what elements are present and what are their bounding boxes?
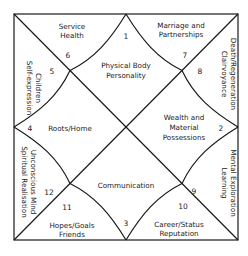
- house-9: Mental Exploration Learning 9: [192, 149, 238, 217]
- house-label: Friends: [59, 230, 85, 239]
- house-label: Partnerships: [159, 30, 204, 39]
- house-label: Physical Body: [101, 61, 151, 70]
- house-number: 10: [178, 202, 188, 211]
- house-label: Clairvoyance: [220, 51, 229, 98]
- house-2: Wealth and Material Possessions 2: [163, 113, 224, 142]
- house-label: Roots/Home: [48, 124, 92, 133]
- house-label: Learning: [220, 167, 229, 198]
- house-number: 11: [62, 203, 72, 212]
- house-label: Death/Regeneration: [229, 38, 238, 110]
- house-label: Unconscious Mind: [29, 150, 38, 215]
- house-label: Self-expression: [25, 61, 34, 115]
- house-label: Marriage and: [157, 21, 205, 30]
- house-label: Service: [59, 22, 86, 31]
- house-5: Children Self-expression 5: [25, 61, 55, 115]
- house-number: 5: [50, 67, 55, 76]
- house-number: 1: [124, 32, 129, 41]
- house-number: 4: [28, 124, 33, 133]
- house-label: Reputation: [159, 229, 198, 238]
- house-number: 6: [66, 51, 71, 60]
- house-12: Unconscious Mind Spiritual Realisation 1…: [20, 146, 54, 218]
- house-number: 9: [192, 187, 197, 196]
- house-label: Hopes/Goals: [49, 221, 94, 230]
- house-4: 4 Roots/Home: [28, 124, 93, 133]
- house-number: 8: [198, 67, 203, 76]
- house-label: Personality: [106, 71, 146, 80]
- house-label: Career/Status: [154, 220, 204, 229]
- house-label: Material: [169, 123, 198, 132]
- house-number: 2: [219, 124, 224, 133]
- house-label: Communication: [98, 181, 155, 190]
- house-number: 7: [183, 51, 188, 60]
- house-number: 3: [124, 219, 129, 228]
- house-10: 10 Career/Status Reputation: [154, 202, 204, 238]
- house-label: Wealth and: [164, 113, 205, 122]
- house-label: Possessions: [163, 133, 206, 142]
- house-label: Health: [60, 31, 84, 40]
- house-label: Mental Exploration: [229, 149, 238, 217]
- house-11: 11 Hopes/Goals Friends: [49, 203, 94, 239]
- house-3: Communication 3: [98, 181, 155, 228]
- house-label: Children: [34, 73, 43, 103]
- house-number: 12: [44, 188, 54, 197]
- house-chart: 1 Physical Body Personality Wealth and M…: [0, 0, 248, 256]
- house-label: Spiritual Realisation: [20, 146, 29, 218]
- house-6: Service Health 6: [59, 22, 86, 60]
